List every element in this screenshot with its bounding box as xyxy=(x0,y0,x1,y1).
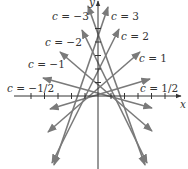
line-label-c--3: c = −3 xyxy=(52,11,89,22)
line-label-c-2: c = 2 xyxy=(121,31,149,42)
y-axis-label: y xyxy=(89,0,95,8)
x-axis-label: x xyxy=(180,99,186,110)
line-label-c-3: c = 3 xyxy=(111,11,139,22)
line-label-c--2: c = −2 xyxy=(45,37,82,48)
line-family-diagram: x y c = −3c = 3c = −2c = 2c = −1c = 1c =… xyxy=(0,0,188,169)
line-label-c--1: c = −1 xyxy=(28,59,65,70)
line-label-c-1: c = 1 xyxy=(139,53,167,64)
line-label-c-1-2: c = 1/2 xyxy=(140,83,178,94)
line-label-c--1-2: c = −1/2 xyxy=(7,83,54,94)
